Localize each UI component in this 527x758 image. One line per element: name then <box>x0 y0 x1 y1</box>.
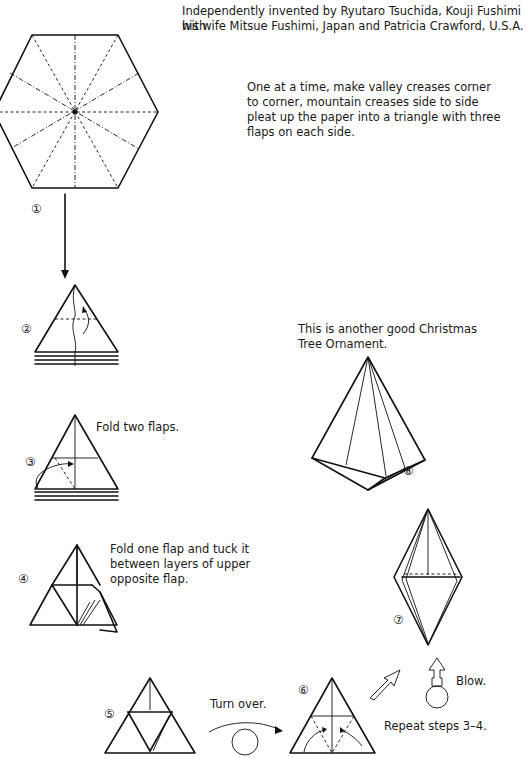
step-4-caption-2: between layers of upper <box>110 557 250 572</box>
step1-hexagon-diagram <box>0 25 170 195</box>
down-arrow-icon <box>60 192 70 282</box>
step5-triangle-diagram <box>105 676 195 756</box>
step-6-number: ⑥ <box>298 684 309 696</box>
blow-label: Blow. <box>456 674 486 689</box>
step-8-number: ⑧ <box>403 465 414 477</box>
intro-line-2: to corner, mountain creases side to side <box>247 95 479 110</box>
step-2-number: ② <box>21 323 32 335</box>
step-3-number: ③ <box>25 456 36 468</box>
step-1-number: ① <box>31 203 42 215</box>
credit-line-2: his wife Mitsue Fushimi, Japan and Patri… <box>182 19 524 34</box>
step-4-number: ④ <box>18 573 29 585</box>
step-4-caption-1: Fold one flap and tuck it <box>110 542 249 557</box>
intro-line-4: flaps on each side. <box>247 125 355 140</box>
step-8-caption-1: This is another good Christmas <box>298 322 477 337</box>
step-8-caption-2: Tree Ornament. <box>298 337 387 352</box>
repeat-steps-label: Repeat steps 3–4. <box>384 719 487 734</box>
step-5-number: ⑤ <box>104 708 115 720</box>
step2-triangle-diagram <box>30 282 130 382</box>
intro-line-3: pleat up the paper into a triangle with … <box>247 110 501 125</box>
blow-arrow-icon <box>425 656 455 712</box>
turn-over-label: Turn over. <box>210 697 266 712</box>
turn-over-icon <box>205 718 285 758</box>
step8-ornament-diagram <box>310 354 435 494</box>
diagonal-arrow-icon <box>368 668 408 703</box>
step-7-number: ⑦ <box>393 614 404 626</box>
intro-line-1: One at a time, make valley creases corne… <box>247 80 491 95</box>
step-4-caption-3: opposite flap. <box>110 572 188 587</box>
step-3-caption: Fold two flaps. <box>96 420 179 435</box>
step7-bipyramid-diagram <box>390 505 470 650</box>
